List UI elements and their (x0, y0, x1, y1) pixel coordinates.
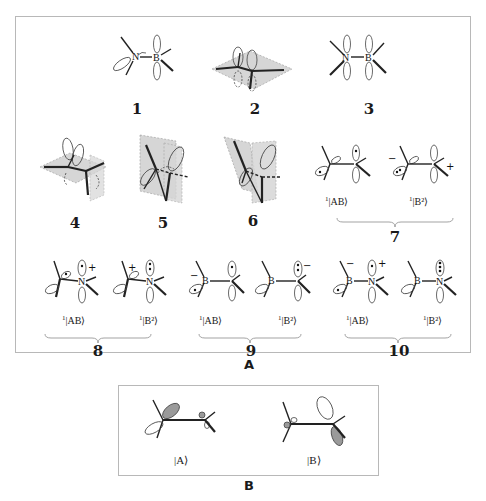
structure-9-b2-drawing: B − (252, 257, 318, 309)
state-b-drawing (273, 396, 363, 451)
structure-10-b2-ket: 1|B²⟩ (423, 314, 442, 326)
structure-7-ab-ket: 1|AB⟩ (325, 195, 348, 207)
structure-7-ab-drawing (314, 142, 380, 192)
structure-1-label: 1 (122, 100, 152, 118)
svg-text:−: − (388, 153, 396, 164)
svg-text:N: N (146, 276, 153, 287)
panel-b: |A⟩ |B⟩ (118, 385, 379, 476)
structure-8-b2-drawing: + N (114, 257, 180, 309)
svg-text:B: B (202, 275, 209, 286)
structure-10-label: 10 (384, 342, 414, 360)
svg-text:B: B (346, 275, 353, 286)
structure-9-b2-ket: 1|B²⟩ (278, 314, 297, 326)
panel-a-label: A (239, 357, 259, 372)
atom-b: B (153, 52, 160, 63)
atom-n: N (132, 51, 139, 62)
svg-text:B: B (414, 275, 421, 286)
structure-9-ab-ket: 1|AB⟩ (199, 314, 222, 326)
structure-8-label: 8 (83, 342, 113, 360)
state-b-ket: |B⟩ (307, 454, 321, 467)
svg-text:−: − (346, 258, 354, 269)
state-a-ket: |A⟩ (174, 454, 188, 467)
panel-b-label: B (239, 478, 259, 493)
svg-text:+: + (88, 262, 96, 273)
structure-10-ab-drawing: − B N + (332, 257, 398, 309)
state-a-drawing (139, 396, 229, 446)
structure-7-label: 7 (380, 228, 410, 246)
structure-2-drawing (210, 33, 300, 93)
structure-8-b2-ket: 1|B²⟩ (139, 314, 158, 326)
structure-6-drawing (222, 133, 292, 213)
svg-text:−: − (190, 270, 198, 281)
structure-10-b2-drawing: B N (400, 257, 466, 309)
structure-7-b2-ket: 1|B²⟩ (409, 195, 428, 207)
structure-9-ab-drawing: − B (186, 257, 252, 309)
structure-5-drawing (136, 133, 206, 213)
structure-7-b2-drawing: − + (388, 142, 458, 192)
svg-text:+: + (378, 258, 386, 269)
svg-text:N: N (368, 276, 375, 287)
atom-b: B (365, 52, 372, 63)
structure-6-label: 6 (238, 212, 268, 230)
atom-n: N (342, 52, 349, 63)
structure-4-label: 4 (60, 214, 90, 232)
panel-a: N B 1 2 N B 3 (15, 16, 471, 353)
svg-text:−: − (303, 260, 311, 271)
svg-text:+: + (446, 161, 454, 172)
structure-3-label: 3 (354, 100, 384, 118)
svg-text:B: B (268, 275, 275, 286)
structure-4-drawing (38, 137, 118, 207)
structure-2-label: 2 (240, 100, 270, 118)
structure-1-drawing: N B (108, 31, 188, 91)
svg-text:N: N (436, 276, 443, 287)
structure-5-label: 5 (148, 214, 178, 232)
structure-10-ab-ket: 1|AB⟩ (346, 314, 369, 326)
structure-3-drawing: N B (326, 31, 406, 91)
structure-8-ab-drawing: N + (46, 257, 112, 309)
structure-8-ab-ket: 1|AB⟩ (62, 314, 85, 326)
svg-text:N: N (78, 276, 85, 287)
